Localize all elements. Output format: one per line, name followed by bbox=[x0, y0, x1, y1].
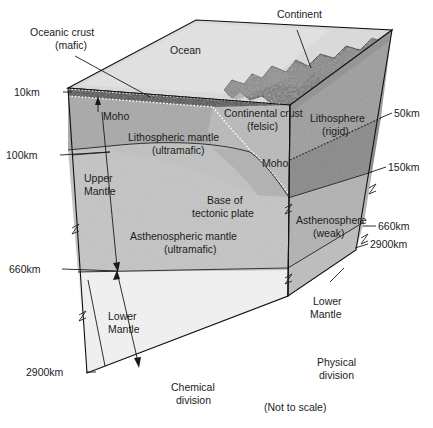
continent-label: Continent bbox=[277, 8, 322, 20]
lithospheric-mantle-label-line2: (ultramafic) bbox=[152, 144, 205, 156]
chemical-division-label-line2: division bbox=[176, 394, 211, 406]
physical-division-label-line2: division bbox=[319, 369, 354, 381]
depth-right-2900km: 2900km bbox=[370, 238, 408, 250]
lower-mantle-label-line2: Mantle bbox=[108, 323, 140, 335]
lower-mantle-label-line1: Lower bbox=[108, 310, 137, 322]
base-tectonic-plate-label-line2: tectonic plate bbox=[192, 207, 254, 219]
earth-block-diagram: Oceanic crust (mafic) Continent Ocean Mo… bbox=[0, 0, 433, 428]
division-label-group: Chemical division Physical division bbox=[171, 356, 356, 406]
continental-crust-label-line1: Continental crust bbox=[224, 107, 303, 119]
depth-labels-left: 10km 100km 660km 2900km bbox=[6, 86, 64, 378]
earth-layers-diagram-page: Oceanic crust (mafic) Continent Ocean Mo… bbox=[0, 0, 433, 428]
chemical-division-label-line1: Chemical bbox=[171, 381, 215, 393]
lithospheric-mantle-label-line1: Lithospheric mantle bbox=[128, 131, 219, 143]
depth-left-100km: 100km bbox=[6, 149, 38, 161]
moho-label-continental: Moho bbox=[262, 157, 288, 169]
depth-left-660km: 660km bbox=[9, 263, 41, 275]
depth-left-10km: 10km bbox=[14, 86, 40, 98]
leader-physical-division bbox=[330, 268, 344, 282]
asthenosphere-label-line2: (weak) bbox=[313, 227, 345, 239]
upper-mantle-label-line1: Upper bbox=[84, 172, 113, 184]
asthenospheric-mantle-label-line1: Asthenospheric mantle bbox=[130, 230, 237, 242]
leader-depth-150km bbox=[371, 167, 386, 172]
base-tectonic-plate-label-line1: Base of bbox=[207, 194, 243, 206]
asthenosphere-label-line1: Asthenosphere bbox=[296, 214, 367, 226]
leader-depth-50km bbox=[380, 113, 392, 118]
side-lower-mantle-label-line2: Mantle bbox=[310, 308, 342, 320]
lithosphere-label-line2: (rigid) bbox=[322, 125, 349, 137]
ocean-label: Ocean bbox=[170, 44, 201, 56]
not-to-scale-note: (Not to scale) bbox=[264, 401, 326, 413]
depth-left-2900km: 2900km bbox=[26, 366, 64, 378]
asthenospheric-mantle-label-line2: (ultramafic) bbox=[164, 243, 217, 255]
break-mark-side-upper bbox=[369, 184, 376, 194]
depth-right-150km: 150km bbox=[388, 161, 420, 173]
oceanic-crust-label-line2: (mafic) bbox=[55, 39, 87, 51]
break-mark-side-lower bbox=[361, 234, 368, 244]
continental-crust-label-line2: (felsic) bbox=[247, 120, 278, 132]
oceanic-crust-label-line1: Oceanic crust bbox=[30, 26, 94, 38]
lower-mantle-arrowhead-bottom bbox=[134, 357, 141, 368]
moho-label-oceanic: Moho bbox=[103, 110, 129, 122]
depth-right-660km: 660km bbox=[378, 220, 410, 232]
side-lower-mantle-label-line1: Lower bbox=[313, 295, 342, 307]
physical-division-label-line1: Physical bbox=[317, 356, 356, 368]
lithosphere-label-line1: Lithosphere bbox=[310, 112, 365, 124]
upper-mantle-label-line2: Mantle bbox=[84, 185, 116, 197]
depth-right-50km: 50km bbox=[394, 107, 420, 119]
